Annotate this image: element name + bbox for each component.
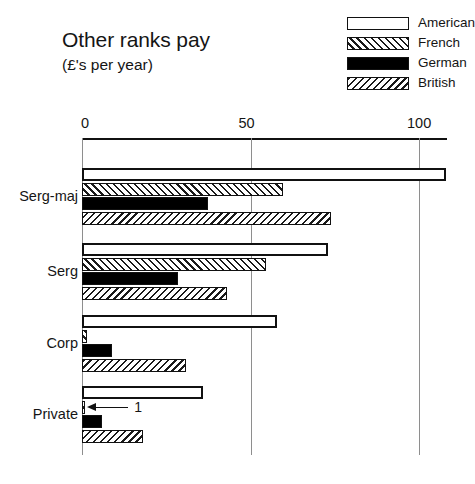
- legend-swatch-french: [347, 37, 409, 50]
- category-label-serg-maj: Serg-maj: [0, 188, 78, 204]
- bar-german-corp: [82, 344, 112, 357]
- legend-item-french: French: [347, 34, 475, 52]
- category-label-private: Private: [0, 406, 78, 422]
- bar-french-serg: [82, 258, 266, 271]
- bar-french-private: [82, 401, 85, 414]
- category-axis: Serg-maj Serg Corp Private: [0, 138, 78, 458]
- legend-item-british: British: [347, 74, 475, 92]
- category-label-corp: Corp: [0, 335, 78, 351]
- legend-swatch-american: [347, 17, 409, 30]
- legend-label-german: German: [418, 56, 467, 70]
- tick-label-50: 50: [239, 115, 255, 131]
- category-label-serg: Serg: [0, 263, 78, 279]
- bar-british-private: [82, 430, 143, 443]
- bar-british-serg: [82, 287, 227, 300]
- legend-item-american: American: [347, 14, 475, 32]
- bar-american-serg-maj: [82, 168, 446, 181]
- bar-french-corp: [82, 330, 87, 343]
- tick-label-100: 100: [407, 115, 431, 131]
- bar-british-serg-maj: [82, 212, 331, 225]
- gridline-100: [419, 138, 420, 455]
- legend-label-american: American: [418, 16, 475, 30]
- chart-subtitle: (£'s per year): [62, 54, 312, 75]
- annotation-arrow-1: 1: [87, 401, 147, 413]
- value-axis-line: [82, 138, 447, 140]
- bar-american-corp: [82, 315, 277, 328]
- chart-title: Other ranks pay: [62, 27, 312, 52]
- plot-area: 050100 1: [82, 138, 475, 458]
- annotation-leader-line: [95, 407, 128, 409]
- legend-label-british: British: [418, 76, 456, 90]
- title-block: Other ranks pay (£'s per year): [62, 27, 312, 75]
- bar-french-serg-maj: [82, 183, 283, 196]
- bar-american-serg: [82, 243, 328, 256]
- bar-german-private: [82, 415, 102, 428]
- tick-label-0: 0: [81, 115, 89, 131]
- bar-british-corp: [82, 359, 186, 372]
- chart-container: Other ranks pay (£'s per year) American …: [0, 0, 475, 484]
- bar-german-serg-maj: [82, 197, 208, 210]
- legend-swatch-german: [347, 57, 409, 70]
- legend-label-french: French: [418, 36, 460, 50]
- bar-american-private: [82, 386, 203, 399]
- legend-swatch-british: [347, 77, 409, 90]
- annotation-label: 1: [134, 400, 142, 414]
- chart-legend: American French German British: [347, 14, 475, 94]
- bar-german-serg: [82, 272, 178, 285]
- legend-item-german: German: [347, 54, 475, 72]
